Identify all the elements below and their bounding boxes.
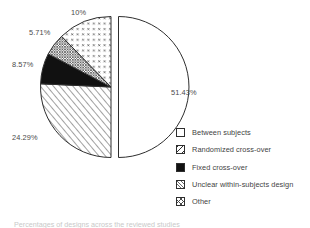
legend-swatch-dotted-cross	[176, 197, 185, 206]
slice-label-other: 10%	[71, 8, 86, 17]
legend-swatch-cross-hatch-dense	[176, 180, 185, 189]
legend-label-randomized-cross-over: Randomized cross-over	[192, 145, 271, 154]
legend-label-unclear-within-subjects: Unclear within-subjects design	[192, 180, 293, 189]
legend-swatch-diagonal-hatch	[176, 145, 185, 154]
legend-item-randomized-cross-over[interactable]: Randomized cross-over	[176, 141, 310, 158]
legend-swatch-solid-white	[176, 128, 185, 137]
legend-swatch-solid-black	[176, 163, 185, 172]
pie-left-slices	[41, 16, 111, 157]
legend-label-fixed-cross-over: Fixed cross-over	[192, 163, 247, 172]
legend-item-other[interactable]: Other	[176, 193, 310, 210]
chart-legend: Between subjects Randomized cross-over F…	[176, 124, 310, 210]
legend-item-unclear-within-subjects[interactable]: Unclear within-subjects design	[176, 176, 310, 193]
legend-item-between-subjects[interactable]: Between subjects	[176, 124, 310, 141]
slice-label-between-subjects: 51.43%	[171, 88, 197, 97]
legend-label-between-subjects: Between subjects	[192, 128, 251, 137]
legend-label-other: Other	[192, 197, 211, 206]
caption-text: Percentages of designs across the review…	[14, 221, 180, 228]
slice-label-fixed-cross-over: 8.57%	[12, 60, 33, 69]
slice-label-unclear-within-subjects: 5.71%	[29, 28, 50, 37]
pie-chart-figure: 51.43% 24.29% 8.57% 5.71% 10% Between su…	[0, 0, 310, 228]
slice-label-randomized-cross-over: 24.29%	[12, 133, 38, 142]
legend-item-fixed-cross-over[interactable]: Fixed cross-over	[176, 159, 310, 176]
clipped-caption: Percentages of designs across the review…	[0, 221, 310, 228]
pie-slice-randomized	[41, 84, 111, 158]
